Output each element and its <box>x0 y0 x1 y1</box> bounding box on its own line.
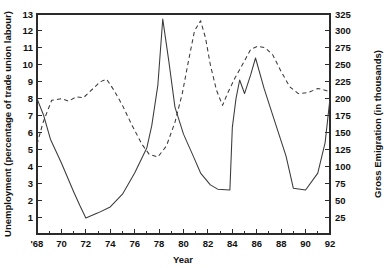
series-gross-emigration-line <box>37 21 330 157</box>
x-tick-label: 88 <box>276 238 287 249</box>
chart-figure: '68707274767880828486889092 123456789101… <box>0 0 390 268</box>
y-left-tick-label: 12 <box>22 25 33 36</box>
y-right-tick-label: 125 <box>335 144 352 155</box>
y-left-tick-label: 13 <box>22 9 33 20</box>
x-axis-title: Year <box>173 254 193 265</box>
y-left-tick-label: 1 <box>28 212 34 223</box>
x-tick-label: 72 <box>81 238 92 249</box>
y-right-tick-label: 150 <box>335 127 351 138</box>
y-right-tick-label: 25 <box>335 212 346 223</box>
x-tick-label: 74 <box>105 238 116 249</box>
y-left-tick-label: 4 <box>28 161 34 172</box>
y-right-tick-label: 300 <box>335 25 351 36</box>
y-axis-right-ticks <box>325 14 330 217</box>
y-right-tick-label: 100 <box>335 161 351 172</box>
x-tick-label: 78 <box>154 238 165 249</box>
y-right-tick-label: 275 <box>335 42 352 53</box>
y-left-tick-label: 2 <box>28 195 33 206</box>
y-left-tick-label: 8 <box>28 93 33 104</box>
y-left-tick-label: 6 <box>28 127 33 138</box>
y-right-tick-label: 175 <box>335 110 352 121</box>
y-left-tick-label: 3 <box>28 178 33 189</box>
x-tick-label: 90 <box>300 238 311 249</box>
x-tick-label: 84 <box>227 238 238 249</box>
y-left-tick-label: 9 <box>28 76 33 87</box>
x-tick-label: 80 <box>178 238 189 249</box>
y-axis-right-title: Gross Emigration (in thousands) <box>372 50 383 198</box>
y-axis-left-ticks <box>37 14 42 217</box>
y-left-tick-label: 5 <box>28 144 34 155</box>
y-right-tick-label: 75 <box>335 178 346 189</box>
y-left-tick-label: 11 <box>23 42 34 53</box>
y-axis-right-tick-labels: 255075100125150175200225250275300325 <box>335 9 352 223</box>
y-left-tick-label: 10 <box>22 59 33 70</box>
y-right-tick-label: 325 <box>335 9 352 20</box>
y-axis-left-tick-labels: 12345678910111213 <box>22 9 33 223</box>
y-left-tick-label: 7 <box>28 110 33 121</box>
axis-frame-path <box>37 14 330 234</box>
x-tick-label: '68 <box>31 238 44 249</box>
x-axis-ticks <box>37 229 330 234</box>
x-tick-label: 92 <box>325 238 336 249</box>
plot-frame <box>37 14 330 234</box>
x-tick-label: 76 <box>129 238 140 249</box>
x-tick-label: 86 <box>251 238 262 249</box>
y-axis-left-title: Unemployment (percentage of trade union … <box>2 11 13 237</box>
series-unemployment-line <box>37 19 330 218</box>
x-tick-label: 82 <box>203 238 214 249</box>
chart-svg: '68707274767880828486889092 123456789101… <box>0 0 390 268</box>
y-right-tick-label: 250 <box>335 59 351 70</box>
x-axis-tick-labels: '68707274767880828486889092 <box>31 238 336 249</box>
x-tick-label: 70 <box>56 238 67 249</box>
y-right-tick-label: 50 <box>335 195 346 206</box>
y-right-tick-label: 200 <box>335 93 351 104</box>
y-right-tick-label: 225 <box>335 76 352 87</box>
